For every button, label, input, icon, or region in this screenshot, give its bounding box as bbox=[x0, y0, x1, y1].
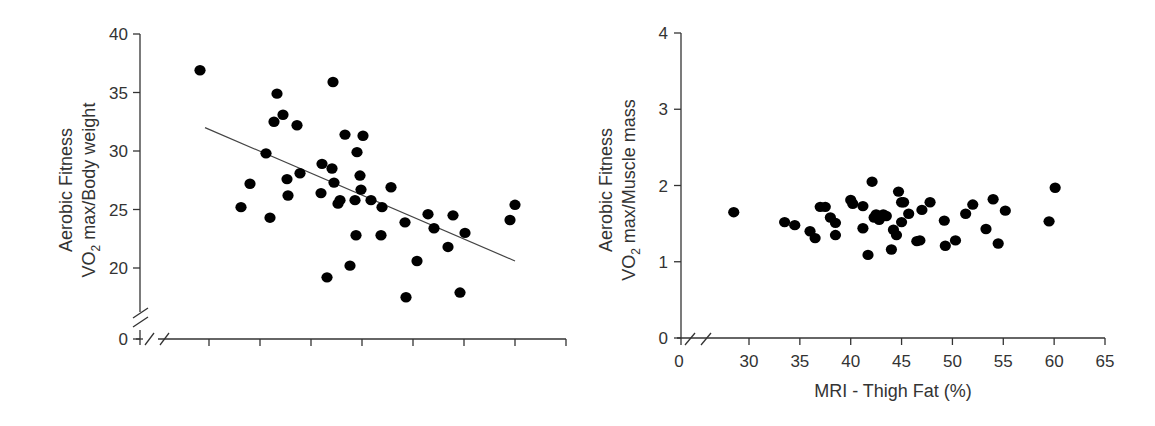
data-point bbox=[886, 244, 897, 254]
data-point bbox=[940, 241, 951, 251]
data-point bbox=[1050, 183, 1061, 193]
left-y-tick-label: 30 bbox=[109, 142, 128, 161]
right-y-tick-label: 3 bbox=[659, 100, 668, 119]
data-point bbox=[789, 220, 800, 230]
left-scatter-plot: 02025303540 Aerobic Fitness VO2 max/Body… bbox=[56, 25, 566, 349]
right-y-axis-title-line1: Aerobic Fitness bbox=[596, 128, 616, 252]
data-point bbox=[857, 201, 868, 211]
data-point bbox=[350, 230, 361, 240]
right-x-tick-label: 35 bbox=[790, 352, 809, 371]
left-y-axis-break-mark bbox=[133, 317, 148, 327]
data-point bbox=[315, 188, 326, 198]
data-point bbox=[282, 190, 293, 200]
left-y-tick-label: 25 bbox=[109, 201, 128, 220]
data-point bbox=[967, 199, 978, 209]
right-x-axis-title: MRI - Thigh Fat (%) bbox=[814, 381, 972, 401]
data-point bbox=[316, 159, 327, 169]
data-point bbox=[779, 217, 790, 227]
right-x-tick-label: 55 bbox=[994, 352, 1013, 371]
right-y-tick-label: 2 bbox=[659, 177, 668, 196]
right-axes: 0123403035404550556065 bbox=[659, 24, 1115, 371]
data-point bbox=[830, 218, 841, 228]
data-point bbox=[357, 131, 368, 141]
data-point bbox=[980, 224, 991, 234]
right-x-tick-label: 50 bbox=[943, 352, 962, 371]
left-y-tick-label: 0 bbox=[119, 330, 128, 349]
data-point bbox=[268, 117, 279, 127]
data-point bbox=[235, 202, 246, 212]
data-point bbox=[862, 250, 873, 260]
data-point bbox=[375, 230, 386, 240]
data-point bbox=[1043, 216, 1054, 226]
left-y-tick-label: 40 bbox=[109, 25, 128, 44]
data-point bbox=[349, 195, 360, 205]
data-point bbox=[896, 217, 907, 227]
data-point bbox=[326, 163, 337, 173]
right-x-tick-label: 60 bbox=[1045, 352, 1064, 371]
data-point bbox=[504, 215, 515, 225]
right-x-axis-break-mark bbox=[701, 333, 711, 345]
right-x-tick-label: 45 bbox=[892, 352, 911, 371]
data-point bbox=[321, 272, 332, 282]
left-data-points bbox=[194, 65, 520, 302]
data-point bbox=[924, 197, 935, 207]
left-axes: 02025303540 bbox=[109, 25, 566, 349]
data-point bbox=[355, 184, 366, 194]
data-point bbox=[400, 292, 411, 302]
data-point bbox=[411, 256, 422, 266]
right-x-tick-label: 65 bbox=[1096, 352, 1115, 371]
data-point bbox=[399, 217, 410, 227]
data-point bbox=[916, 205, 927, 215]
data-point bbox=[893, 186, 904, 196]
data-point bbox=[881, 211, 892, 221]
data-point bbox=[830, 230, 841, 240]
data-point bbox=[291, 120, 302, 130]
data-point bbox=[960, 209, 971, 219]
data-point bbox=[328, 177, 339, 187]
left-y-tick-label: 35 bbox=[109, 84, 128, 103]
data-point bbox=[194, 65, 205, 75]
data-point bbox=[339, 129, 350, 139]
data-point bbox=[327, 77, 338, 87]
data-point bbox=[271, 88, 282, 98]
left-y-axis-title-line2: VO2 max/Body weight bbox=[79, 103, 103, 278]
right-y-axis-title-line2: VO2 max/Muscle mass bbox=[619, 99, 643, 281]
right-y-tick-label: 4 bbox=[659, 24, 668, 43]
data-point bbox=[993, 238, 1004, 248]
data-point bbox=[334, 195, 345, 205]
data-point bbox=[244, 179, 255, 189]
data-point bbox=[277, 110, 288, 120]
data-point bbox=[428, 223, 439, 233]
data-point bbox=[365, 195, 376, 205]
data-point bbox=[857, 223, 868, 233]
data-point bbox=[385, 182, 396, 192]
data-point bbox=[376, 202, 387, 212]
right-x-tick-label: 40 bbox=[841, 352, 860, 371]
data-point bbox=[820, 202, 831, 212]
data-point bbox=[950, 235, 961, 245]
data-point bbox=[351, 147, 362, 157]
data-point bbox=[939, 215, 950, 225]
figure: 02025303540 Aerobic Fitness VO2 max/Body… bbox=[0, 0, 1155, 426]
data-point bbox=[866, 176, 877, 186]
data-point bbox=[354, 170, 365, 180]
data-point bbox=[344, 260, 355, 270]
right-scatter-plot: 0123403035404550556065 Aerobic Fitness V… bbox=[596, 24, 1114, 401]
data-point bbox=[447, 210, 458, 220]
data-point bbox=[914, 235, 925, 245]
data-point bbox=[891, 230, 902, 240]
data-point bbox=[422, 209, 433, 219]
data-point bbox=[454, 287, 465, 297]
right-x-tick-label: 30 bbox=[740, 352, 759, 371]
data-point bbox=[260, 148, 271, 158]
data-point bbox=[281, 174, 292, 184]
data-point bbox=[1000, 205, 1011, 215]
right-data-points bbox=[728, 176, 1061, 260]
data-point bbox=[847, 199, 858, 209]
data-point bbox=[459, 228, 470, 238]
right-y-tick-label: 0 bbox=[659, 329, 668, 348]
data-point bbox=[898, 197, 909, 207]
data-point bbox=[294, 168, 305, 178]
left-y-axis-title-line1: Aerobic Fitness bbox=[56, 128, 76, 252]
data-point bbox=[509, 200, 520, 210]
